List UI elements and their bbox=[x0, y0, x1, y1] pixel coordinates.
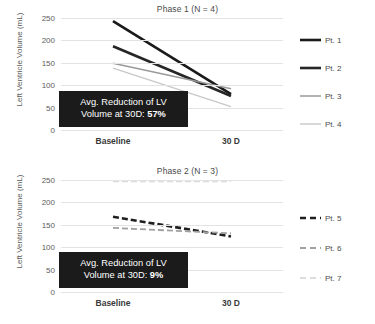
legend-swatch-icon bbox=[300, 35, 321, 45]
chart-title-phase1: Phase 1 (N = 4) bbox=[0, 4, 375, 14]
gridline bbox=[61, 202, 283, 203]
callout-line-2: Volume at 30D: 9% bbox=[66, 269, 181, 281]
gridline bbox=[61, 180, 283, 181]
x-axis-tick-label: 30 D bbox=[222, 298, 240, 308]
y-axis-tick-label: 50 bbox=[46, 265, 55, 274]
legend-swatch-icon bbox=[300, 119, 321, 129]
legend-swatch-icon bbox=[300, 273, 321, 283]
y-axis-tick-label: 0 bbox=[51, 126, 55, 135]
chart-panel-phase2: Phase 2 (N = 3) Left Ventricle Volume (m… bbox=[0, 162, 375, 324]
gridline bbox=[61, 225, 283, 226]
y-axis-tick-label: 100 bbox=[42, 243, 55, 252]
legend-label: Pt. 3 bbox=[325, 92, 341, 101]
legend-label: Pt. 2 bbox=[325, 64, 341, 73]
legend-phase1: Pt. 1Pt. 2Pt. 3Pt. 4 bbox=[300, 18, 375, 130]
y-axis-title-phase2: Left Ventricle Volume (mL) bbox=[15, 162, 24, 282]
gridline bbox=[61, 85, 283, 86]
legend-item-pt-5[interactable]: Pt. 5 bbox=[300, 213, 341, 223]
gridline bbox=[61, 292, 283, 293]
callout-percentage: 9% bbox=[150, 270, 163, 280]
x-axis-labels-phase2: Baseline30 D bbox=[61, 298, 283, 314]
y-axis-tick-label: 0 bbox=[51, 288, 55, 297]
gridline bbox=[61, 130, 283, 131]
y-axis-tick-label: 200 bbox=[42, 198, 55, 207]
chart-title-phase2: Phase 2 (N = 3) bbox=[0, 166, 375, 176]
legend-item-pt-3[interactable]: Pt. 3 bbox=[300, 91, 341, 101]
legend-swatch-icon bbox=[300, 91, 321, 101]
series-line-pt-1 bbox=[113, 21, 231, 94]
y-axis-tick-label: 200 bbox=[42, 36, 55, 45]
chart-panel-phase1: Phase 1 (N = 4) Left Ventricle Volume (m… bbox=[0, 0, 375, 162]
legend-swatch-icon bbox=[300, 243, 321, 253]
y-axis-tick-label: 150 bbox=[42, 58, 55, 67]
x-axis-tick-label: Baseline bbox=[96, 136, 131, 146]
callout-line-1: Avg. Reduction of LV bbox=[66, 96, 181, 108]
callout-prefix: Volume at 30D: bbox=[84, 270, 150, 280]
legend-item-pt-4[interactable]: Pt. 4 bbox=[300, 119, 341, 129]
annotation-callout-phase2: Avg. Reduction of LV Volume at 30D: 9% bbox=[59, 252, 188, 288]
y-axis-tick-label: 100 bbox=[42, 81, 55, 90]
annotation-callout-phase1: Avg. Reduction of LV Volume at 30D: 57% bbox=[59, 91, 188, 127]
legend-item-pt-2[interactable]: Pt. 2 bbox=[300, 63, 341, 73]
callout-line-2: Volume at 30D: 57% bbox=[66, 108, 181, 120]
legend-item-pt-7[interactable]: Pt. 7 bbox=[300, 273, 341, 283]
gridline bbox=[61, 40, 283, 41]
x-axis-tick-label: 30 D bbox=[222, 136, 240, 146]
gridline bbox=[61, 63, 283, 64]
legend-label: Pt. 1 bbox=[325, 36, 341, 45]
legend-item-pt-6[interactable]: Pt. 6 bbox=[300, 243, 341, 253]
x-axis-tick-label: Baseline bbox=[96, 298, 131, 308]
y-axis-title-phase1: Left Ventricle Volume (mL) bbox=[15, 0, 24, 120]
legend-label: Pt. 7 bbox=[325, 274, 341, 283]
legend-item-pt-1[interactable]: Pt. 1 bbox=[300, 35, 341, 45]
x-axis-labels-phase1: Baseline30 D bbox=[61, 136, 283, 152]
legend-label: Pt. 4 bbox=[325, 120, 341, 129]
y-axis-tick-label: 150 bbox=[42, 220, 55, 229]
legend-swatch-icon bbox=[300, 213, 321, 223]
series-line-pt-6 bbox=[113, 228, 231, 233]
y-axis-tick-label: 250 bbox=[42, 14, 55, 23]
legend-swatch-icon bbox=[300, 63, 321, 73]
callout-line-1: Avg. Reduction of LV bbox=[66, 257, 181, 269]
gridline bbox=[61, 247, 283, 248]
legend-phase2: Pt. 5Pt. 6Pt. 7 bbox=[300, 180, 375, 292]
callout-percentage: 57% bbox=[147, 109, 166, 119]
y-axis-tick-label: 250 bbox=[42, 176, 55, 185]
y-axis-tick-label: 50 bbox=[46, 103, 55, 112]
callout-prefix: Volume at 30D: bbox=[81, 109, 147, 119]
series-line-pt-2 bbox=[113, 46, 231, 96]
series-line-pt-5 bbox=[113, 217, 231, 237]
gridline bbox=[61, 18, 283, 19]
legend-label: Pt. 6 bbox=[325, 244, 341, 253]
legend-label: Pt. 5 bbox=[325, 214, 341, 223]
